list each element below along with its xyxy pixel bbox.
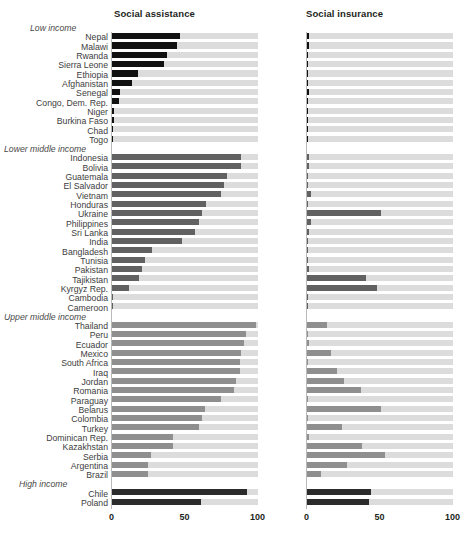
bar-fill — [112, 257, 146, 263]
bar-fill — [112, 163, 242, 169]
bar-track — [307, 499, 453, 505]
country-label: Thailand — [0, 322, 108, 330]
country-label: India — [0, 238, 108, 246]
country-label: Ecuador — [0, 341, 108, 349]
axis-tick-label: 100 — [250, 512, 265, 522]
bar-fill — [112, 80, 132, 86]
bar-track — [112, 154, 258, 160]
bar-track — [307, 42, 453, 48]
bar-track — [307, 471, 453, 477]
country-label: Burkina Faso — [0, 117, 108, 125]
bar-track — [112, 191, 258, 197]
bar-track — [112, 98, 258, 104]
axis-tick-label: 0 — [304, 512, 309, 522]
bar-track — [112, 340, 258, 346]
bar-track — [112, 210, 258, 216]
axis-tick-label: 0 — [109, 512, 114, 522]
bar-track — [112, 117, 258, 123]
country-label: Nepal — [0, 33, 108, 41]
bar-track — [307, 257, 453, 263]
bar-track — [307, 434, 453, 440]
bar-track — [307, 285, 453, 291]
bar-track — [112, 257, 258, 263]
bar-track — [112, 396, 258, 402]
bar-fill — [112, 499, 201, 505]
bar-track — [112, 424, 258, 430]
bar-track — [307, 387, 453, 393]
bar-track — [112, 126, 258, 132]
country-label: Pakistan — [0, 266, 108, 274]
bar-fill — [307, 275, 367, 281]
group-heading: High income — [19, 479, 67, 489]
bar-fill — [112, 173, 227, 179]
country-label: Afghanistan — [0, 80, 108, 88]
bar-track — [307, 368, 453, 374]
country-label: Congo, Dem. Rep. — [0, 99, 108, 107]
bar-fill — [307, 285, 377, 291]
bar-fill — [112, 275, 140, 281]
bar-track — [307, 247, 453, 253]
bar-track — [112, 285, 258, 291]
country-label: Jordan — [0, 378, 108, 386]
country-label: Bangladesh — [0, 248, 108, 256]
cropped-header-text — [100, 0, 460, 6]
bar-fill — [112, 471, 149, 477]
bar-fill — [112, 350, 242, 356]
bar-fill — [112, 396, 222, 402]
country-label: Colombia — [0, 415, 108, 423]
bar-fill — [307, 406, 381, 412]
bar-track — [112, 322, 258, 328]
bar-track — [112, 350, 258, 356]
bar-track — [112, 294, 258, 300]
bar-track — [307, 173, 453, 179]
axis-zero-line — [111, 32, 112, 510]
bar-track — [307, 229, 453, 235]
bar-track — [307, 452, 453, 458]
country-label: Chad — [0, 127, 108, 135]
bar-track — [112, 52, 258, 58]
country-label: Serbia — [0, 453, 108, 461]
bar-track — [307, 238, 453, 244]
bar-track — [307, 182, 453, 188]
country-label: Sierra Leone — [0, 61, 108, 69]
bar-fill — [112, 182, 224, 188]
bar-fill — [112, 247, 153, 253]
country-label: Senegal — [0, 89, 108, 97]
bar-track — [307, 108, 453, 114]
country-label: Kazakhstan — [0, 443, 108, 451]
bar-track — [307, 154, 453, 160]
country-label: Chile — [0, 490, 108, 498]
bar-track — [307, 443, 453, 449]
country-label: Paraguay — [0, 397, 108, 405]
bar-track — [307, 331, 453, 337]
bar-fill — [112, 489, 248, 495]
bar-track — [112, 266, 258, 272]
axis-tick-label: 50 — [374, 512, 384, 522]
bar-track — [112, 499, 258, 505]
country-label: Tunisia — [0, 257, 108, 265]
country-label: Vietnam — [0, 192, 108, 200]
bar-fill — [112, 70, 138, 76]
bar-fill — [112, 89, 121, 95]
bar-track — [112, 378, 258, 384]
country-label: Tajikistan — [0, 276, 108, 284]
country-label: Turkey — [0, 425, 108, 433]
group-heading: Low income — [30, 23, 76, 33]
bar-track — [307, 396, 453, 402]
bar-track — [307, 98, 453, 104]
bar-fill — [112, 340, 245, 346]
bar-track — [112, 182, 258, 188]
bar-fill — [112, 201, 207, 207]
bar-fill — [112, 434, 173, 440]
bar-track — [307, 266, 453, 272]
bar-fill — [112, 285, 130, 291]
bar-track — [307, 61, 453, 67]
bar-track — [112, 70, 258, 76]
bar-track — [307, 117, 453, 123]
country-label: Bolivia — [0, 164, 108, 172]
bar-track — [112, 42, 258, 48]
bar-fill — [307, 368, 338, 374]
bar-track — [112, 387, 258, 393]
bar-fill — [112, 154, 242, 160]
bar-track — [307, 359, 453, 365]
